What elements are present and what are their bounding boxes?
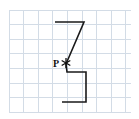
point-label-P: P xyxy=(53,58,59,69)
geometry-figure-canvas: P xyxy=(0,0,139,119)
upper-triangle xyxy=(55,22,84,64)
shapes-group xyxy=(55,22,86,102)
figure-svg: P xyxy=(0,0,139,119)
asterisk-marker xyxy=(62,58,71,68)
